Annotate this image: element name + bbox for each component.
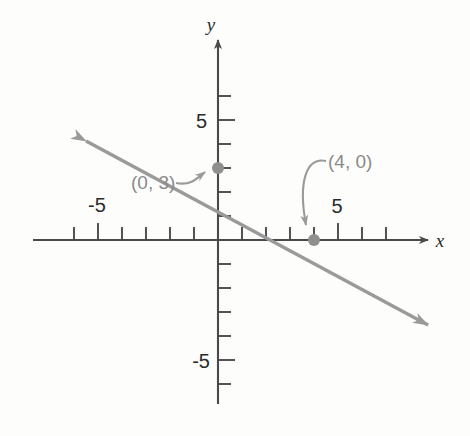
annotation-arrow-0-3 [176, 172, 205, 184]
point-label-0-3: (0, 3) [131, 172, 175, 193]
x-axis-ticks [74, 223, 386, 240]
point-0-3 [212, 162, 224, 174]
x-axis-label: x [435, 230, 445, 251]
y-axis-label: y [205, 14, 216, 35]
axes-group [33, 40, 428, 404]
x-tick-label--5: -5 [88, 194, 106, 216]
coordinate-plane-figure: y x 5 -5 -5 5 (0, 3) (4, 0) [0, 0, 470, 436]
x-tick-label-5: 5 [331, 195, 342, 217]
y-tick-label--5: -5 [192, 350, 210, 372]
y-tick-label-5: 5 [196, 110, 207, 132]
annotation-arrow-4-0 [303, 161, 326, 225]
plotted-line [86, 141, 428, 325]
point-4-0 [308, 234, 320, 246]
graph-svg: y x 5 -5 -5 5 (0, 3) (4, 0) [0, 0, 470, 436]
point-label-4-0: (4, 0) [328, 151, 372, 172]
